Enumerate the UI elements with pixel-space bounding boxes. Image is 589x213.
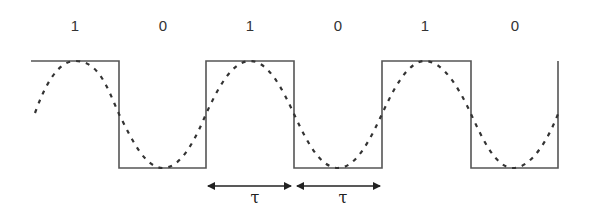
bit-label: 1 [240,17,260,34]
sine-wave-dashed [35,61,558,168]
bit-label: 0 [153,17,173,34]
bit-label: 0 [505,17,525,34]
bit-label: 1 [65,17,85,34]
waveform-graphic [0,0,589,213]
bit-label: 1 [415,17,435,34]
tau-label: τ [333,188,353,207]
tau-label: τ [245,188,265,207]
bit-label: 0 [328,17,348,34]
signal-diagram: 1 0 1 0 1 0 τ τ [0,0,589,213]
